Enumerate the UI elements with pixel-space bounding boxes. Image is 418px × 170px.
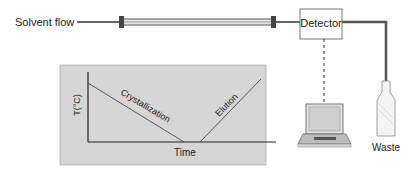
waste-label: Waste (372, 142, 400, 153)
column-end-fitting-right (271, 16, 276, 28)
detector: Detector (300, 9, 342, 39)
laptop-icon (298, 104, 351, 147)
column (119, 16, 276, 28)
diagram-canvas: Solvent flow Detector Waste (0, 0, 418, 170)
x-axis-label: Time (174, 147, 196, 158)
column-end-fitting-left (119, 16, 124, 28)
waste-bottle-icon (377, 81, 395, 136)
y-axis-label: T(°C) (72, 94, 82, 116)
temperature-program-plot: Crystallization Elution T(°C) Time (60, 65, 276, 165)
detector-label: Detector (300, 17, 342, 29)
waste-tube (342, 22, 386, 83)
solvent-flow-label: Solvent flow (15, 16, 74, 28)
